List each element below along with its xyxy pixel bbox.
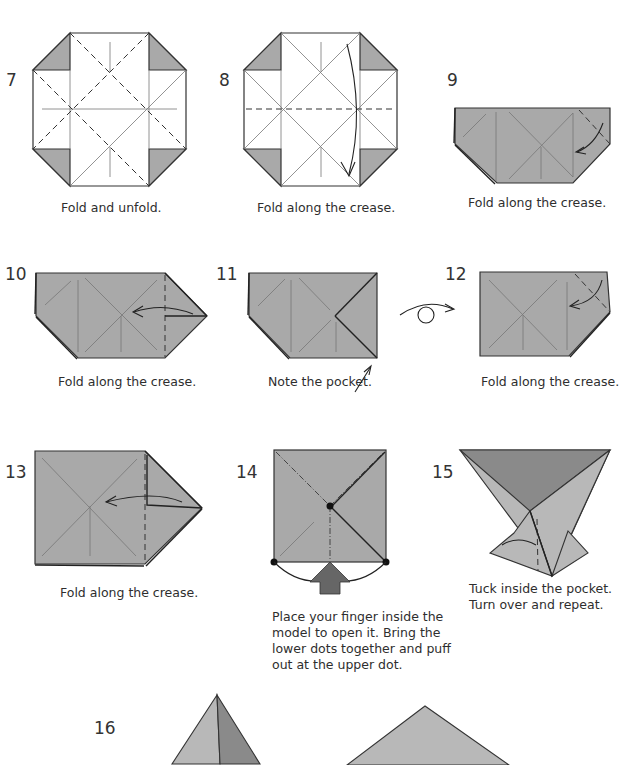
step-13-number: 13 [5, 462, 27, 482]
push-arrow-icon [310, 562, 350, 594]
step-12-caption: Fold along the crease. [481, 374, 619, 390]
step-10-number: 10 [5, 264, 27, 284]
step-9-caption: Fold along the crease. [468, 195, 606, 211]
step-15-number: 15 [432, 462, 454, 482]
step-10-caption: Fold along the crease. [58, 374, 196, 390]
step-16-diagram-pyramid [170, 694, 270, 764]
step-14-caption: Place your finger inside the model to op… [272, 609, 451, 673]
step-8-number: 8 [219, 70, 230, 90]
step-9-number: 9 [447, 70, 458, 90]
step-8-caption: Fold along the crease. [257, 200, 395, 216]
step-14-number: 14 [236, 462, 258, 482]
step-16-number: 16 [94, 718, 116, 738]
step-11-number: 11 [216, 264, 238, 284]
step-14-diagram [268, 448, 394, 568]
step-7-diagram [32, 32, 188, 188]
step-12-diagram [479, 270, 614, 360]
step-14-caption-line-3: lower dots together and puff [272, 641, 451, 657]
step-14-caption-line-2: model to open it. Bring the [272, 625, 451, 641]
turn-over-icon [398, 295, 458, 327]
upper-dot [327, 503, 334, 510]
step-7-caption: Fold and unfold. [61, 200, 162, 216]
step-7-number: 7 [6, 70, 17, 90]
step-15-diagram [458, 449, 614, 579]
step-8-diagram [243, 32, 399, 188]
step-14-caption-line-1: Place your finger inside the [272, 609, 451, 625]
step-13-caption: Fold along the crease. [60, 585, 198, 601]
step-11-caption: Note the pocket. [268, 374, 372, 390]
step-16-diagram-flat [345, 705, 515, 765]
step-15-caption: Tuck inside the pocket. Turn over and re… [469, 581, 612, 613]
step-10-diagram [33, 272, 211, 362]
step-15-caption-line-2: Turn over and repeat. [469, 597, 612, 613]
step-14-caption-line-4: out at the upper dot. [272, 657, 451, 673]
step-13-diagram [34, 450, 206, 570]
step-12-number: 12 [445, 264, 467, 284]
step-9-diagram [453, 107, 613, 187]
step-15-caption-line-1: Tuck inside the pocket. [469, 581, 612, 597]
step-11-diagram [247, 272, 382, 362]
